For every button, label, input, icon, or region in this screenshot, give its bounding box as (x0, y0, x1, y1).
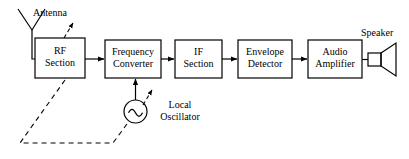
rf-tuning-arrow-icon (64, 23, 73, 38)
block-audio-amplifier (308, 40, 362, 78)
block-envelope-detector (238, 40, 292, 78)
block-if-section (175, 40, 222, 78)
block-frequency-converter (105, 40, 161, 78)
block-rf-section (35, 38, 85, 78)
ganged-tuning-link (20, 80, 127, 143)
speaker-icon (368, 43, 396, 76)
speaker-label: Speaker (361, 27, 393, 39)
local-oscillator-label: Local Oscillator (150, 99, 210, 123)
block-diagram-figure: RF Section Frequency Converter IF Sectio… (0, 0, 409, 159)
diagram-canvas (0, 0, 409, 159)
antenna-label: Antenna (33, 7, 67, 19)
